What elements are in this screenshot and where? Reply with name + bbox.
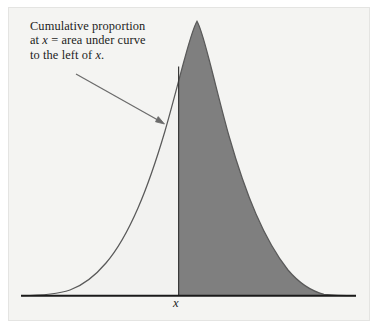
figure-root: Cumulative proportion at x = area under … [0,0,378,329]
caption-line-3-pre: to the left of [30,48,96,62]
area-right-of-x [22,21,356,295]
caption-line-2-post: = area under curve [48,33,146,47]
x-axis-tick-label: x [173,296,179,311]
caption-line-3: to the left of x. [30,48,190,62]
figure-caption: Cumulative proportion at x = area under … [30,19,190,62]
caption-line-1: Cumulative proportion [30,19,190,33]
caption-line-3-post: . [101,48,104,62]
caption-line-2-pre: at [30,33,42,47]
caption-line-2: at x = area under curve [30,33,190,47]
caption-pointer-arrow [76,74,165,124]
